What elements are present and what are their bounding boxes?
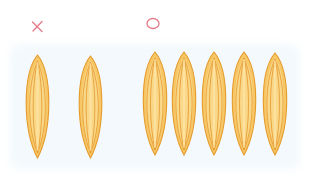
rice-grain [23,55,52,158]
rice-grain [169,52,199,155]
rice-grain [76,56,105,158]
rice-grain [229,52,259,155]
circle-mark-icon: ○ [145,17,161,30]
wrong-label: × [31,33,32,34]
rice-grain [199,52,229,155]
rice-grain [140,52,170,155]
cross-mark-icon: × [31,20,44,33]
correct-label: ○ [145,30,146,31]
rice-grain [260,53,290,155]
